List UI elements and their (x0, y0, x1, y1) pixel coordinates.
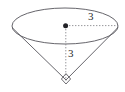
radius-dimension-label: 3 (88, 11, 94, 22)
cone-figure: 3 3 (0, 0, 125, 92)
cone-left-slant-line (12, 28, 66, 80)
height-dimension-label: 3 (68, 48, 74, 59)
cone-diagram-svg (0, 0, 125, 92)
center-point-dot (63, 23, 68, 28)
